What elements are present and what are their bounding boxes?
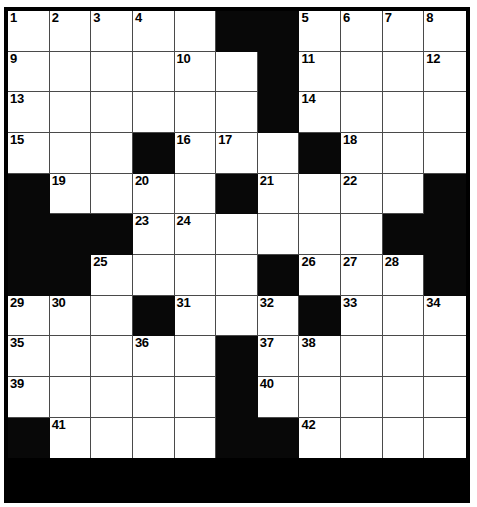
crossword-cell[interactable]	[216, 296, 258, 337]
crossword-cell-37[interactable]: 37	[258, 336, 300, 377]
crossword-cell-15[interactable]: 15	[8, 133, 50, 174]
crossword-cell[interactable]	[175, 174, 217, 215]
crossword-cell-12[interactable]: 12	[424, 52, 466, 93]
crossword-cell-38[interactable]: 38	[299, 336, 341, 377]
crossword-cell-6[interactable]: 6	[341, 11, 383, 52]
crossword-block	[50, 255, 92, 296]
crossword-cell-10[interactable]: 10	[175, 52, 217, 93]
crossword-cell-2[interactable]: 2	[50, 11, 92, 52]
crossword-cell[interactable]	[175, 336, 217, 377]
crossword-cell-31[interactable]: 31	[175, 296, 217, 337]
crossword-cell[interactable]	[91, 296, 133, 337]
crossword-cell[interactable]	[258, 214, 300, 255]
crossword-cell-7[interactable]: 7	[383, 11, 425, 52]
crossword-cell-32[interactable]: 32	[258, 296, 300, 337]
crossword-cell[interactable]	[175, 255, 217, 296]
crossword-cell-24[interactable]: 24	[175, 214, 217, 255]
crossword-cell-19[interactable]: 19	[50, 174, 92, 215]
crossword-cell-41[interactable]: 41	[50, 418, 92, 459]
crossword-cell[interactable]	[133, 255, 175, 296]
crossword-cell[interactable]	[341, 418, 383, 459]
crossword-cell[interactable]	[341, 377, 383, 418]
crossword-cell[interactable]	[299, 174, 341, 215]
crossword-cell-33[interactable]: 33	[341, 296, 383, 337]
crossword-cell[interactable]	[91, 133, 133, 174]
crossword-cell[interactable]	[383, 296, 425, 337]
crossword-cell[interactable]	[383, 418, 425, 459]
crossword-cell-16[interactable]: 16	[175, 133, 217, 174]
crossword-cell[interactable]	[424, 418, 466, 459]
crossword-cell[interactable]	[50, 133, 92, 174]
crossword-cell[interactable]	[216, 92, 258, 133]
crossword-cell[interactable]	[299, 214, 341, 255]
crossword-cell-1[interactable]: 1	[8, 11, 50, 52]
crossword-cell-18[interactable]: 18	[341, 133, 383, 174]
crossword-cell-28[interactable]: 28	[383, 255, 425, 296]
crossword-cell-22[interactable]: 22	[341, 174, 383, 215]
crossword-cell[interactable]	[91, 92, 133, 133]
crossword-cell[interactable]	[133, 377, 175, 418]
crossword-cell[interactable]	[133, 92, 175, 133]
crossword-cell[interactable]	[175, 377, 217, 418]
crossword-cell[interactable]	[341, 52, 383, 93]
crossword-cell[interactable]	[424, 92, 466, 133]
crossword-cell[interactable]	[50, 336, 92, 377]
crossword-cell[interactable]	[133, 418, 175, 459]
crossword-cell-4[interactable]: 4	[133, 11, 175, 52]
crossword-cell[interactable]	[383, 52, 425, 93]
cell-number: 12	[426, 52, 440, 66]
crossword-cell-34[interactable]: 34	[424, 296, 466, 337]
crossword-cell-5[interactable]: 5	[299, 11, 341, 52]
crossword-grid[interactable]: 1234567891011121314151617181920212223242…	[4, 7, 470, 503]
crossword-cell[interactable]	[383, 377, 425, 418]
crossword-cell[interactable]	[175, 418, 217, 459]
crossword-cell[interactable]	[341, 336, 383, 377]
crossword-cell-27[interactable]: 27	[341, 255, 383, 296]
crossword-cell[interactable]	[341, 92, 383, 133]
crossword-cell-3[interactable]: 3	[91, 11, 133, 52]
crossword-cell[interactable]	[91, 52, 133, 93]
crossword-cell[interactable]	[216, 255, 258, 296]
crossword-cell-17[interactable]: 17	[216, 133, 258, 174]
crossword-cell-26[interactable]: 26	[299, 255, 341, 296]
crossword-cell[interactable]	[175, 92, 217, 133]
crossword-cell[interactable]	[383, 336, 425, 377]
crossword-cell[interactable]	[175, 11, 217, 52]
crossword-cell[interactable]	[383, 174, 425, 215]
crossword-cell[interactable]	[50, 92, 92, 133]
crossword-cell[interactable]	[216, 52, 258, 93]
crossword-cell[interactable]	[383, 92, 425, 133]
crossword-block	[8, 255, 50, 296]
crossword-cell-30[interactable]: 30	[50, 296, 92, 337]
crossword-cell[interactable]	[424, 336, 466, 377]
crossword-cell-13[interactable]: 13	[8, 92, 50, 133]
crossword-cell-36[interactable]: 36	[133, 336, 175, 377]
crossword-cell-25[interactable]: 25	[91, 255, 133, 296]
crossword-cell[interactable]	[50, 377, 92, 418]
crossword-cell-42[interactable]: 42	[299, 418, 341, 459]
crossword-cell-21[interactable]: 21	[258, 174, 300, 215]
crossword-cell[interactable]	[91, 418, 133, 459]
crossword-cell-23[interactable]: 23	[133, 214, 175, 255]
crossword-cell[interactable]	[91, 377, 133, 418]
crossword-cell[interactable]	[424, 377, 466, 418]
crossword-cell[interactable]	[50, 52, 92, 93]
crossword-cell-11[interactable]: 11	[299, 52, 341, 93]
crossword-cell-8[interactable]: 8	[424, 11, 466, 52]
crossword-cell[interactable]	[133, 52, 175, 93]
crossword-cell[interactable]	[341, 214, 383, 255]
crossword-cell-9[interactable]: 9	[8, 52, 50, 93]
crossword-cell[interactable]	[216, 214, 258, 255]
crossword-cell[interactable]	[258, 133, 300, 174]
crossword-cell-20[interactable]: 20	[133, 174, 175, 215]
crossword-cell-39[interactable]: 39	[8, 377, 50, 418]
crossword-cell[interactable]	[383, 133, 425, 174]
crossword-cell[interactable]	[299, 377, 341, 418]
crossword-cell-14[interactable]: 14	[299, 92, 341, 133]
crossword-cell[interactable]	[424, 133, 466, 174]
crossword-cell-40[interactable]: 40	[258, 377, 300, 418]
crossword-cell[interactable]	[91, 336, 133, 377]
crossword-cell[interactable]	[91, 174, 133, 215]
crossword-cell-29[interactable]: 29	[8, 296, 50, 337]
crossword-cell-35[interactable]: 35	[8, 336, 50, 377]
